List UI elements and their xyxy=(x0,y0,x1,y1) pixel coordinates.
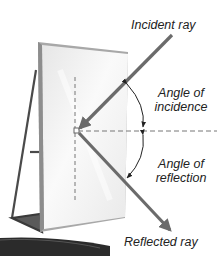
angle-of-incidence-arc xyxy=(127,84,143,127)
angle-of-reflection-label: Angle of reflection xyxy=(146,157,216,185)
incidence-point xyxy=(74,128,79,133)
mirror-stand xyxy=(12,70,42,232)
angle-of-reflection-arc xyxy=(127,135,143,178)
angle-of-reflection-line2: reflection xyxy=(146,171,216,185)
incident-ray-label: Incident ray xyxy=(131,18,196,32)
angle-of-incidence-label: Angle of incidence xyxy=(146,86,216,114)
reflected-ray-label: Reflected ray xyxy=(124,235,198,249)
diagram-canvas xyxy=(0,0,217,256)
angle-of-incidence-line1: Angle of xyxy=(146,86,216,100)
ground xyxy=(0,237,110,256)
reflection-diagram: Incident ray Angle of incidence Angle of… xyxy=(0,0,217,256)
angle-of-incidence-line2: incidence xyxy=(146,100,216,114)
angle-of-reflection-line1: Angle of xyxy=(146,157,216,171)
